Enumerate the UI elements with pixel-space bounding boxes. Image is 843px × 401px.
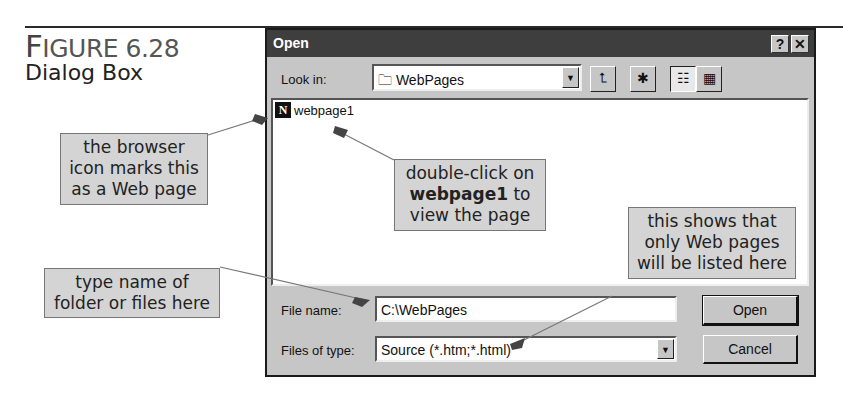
look-in-select[interactable]: 🗀 WebPages ▼ <box>372 64 582 91</box>
callout-line: icon marks this <box>61 158 207 179</box>
callout-line: this shows that <box>629 211 795 232</box>
file-name-input[interactable]: C:\WebPages <box>375 296 677 322</box>
callout-line: folder or files here <box>45 293 219 314</box>
up-one-level-icon[interactable]: ⮤ <box>590 66 616 92</box>
look-in-label: Look in: <box>281 72 327 87</box>
callout-line: double-click on <box>395 163 545 184</box>
create-new-folder-icon[interactable]: ✱ <box>630 66 656 92</box>
title-bar: Open ? ✕ <box>267 30 814 57</box>
callout-line: will be listed here <box>629 253 795 274</box>
folder-icon: 🗀 <box>378 72 396 88</box>
files-of-type-value: Source (*.htm;*.html) <box>381 342 511 358</box>
list-view-icon[interactable]: ☷ <box>670 66 696 92</box>
callout-line: view the page <box>395 205 545 226</box>
figure-label: FIGURE 6.28 <box>25 28 179 64</box>
callout-line: as a Web page <box>61 179 207 200</box>
dialog-title: Open <box>273 35 309 51</box>
files-of-type-label: Files of type: <box>281 343 355 358</box>
close-button[interactable]: ✕ <box>791 35 809 53</box>
files-of-type-dropdown-arrow-icon[interactable]: ▼ <box>657 339 674 359</box>
callout-browser-icon: the browser icon marks this as a Web pag… <box>60 133 208 205</box>
file-item-name: webpage1 <box>294 103 354 118</box>
callout-line: only Web pages <box>629 232 795 253</box>
callout-line: type name of <box>45 272 219 293</box>
callout-files-type: this shows that only Web pages will be l… <box>628 207 796 279</box>
file-name-label: File name: <box>281 303 342 318</box>
callout-bold-filename: webpage1 <box>409 184 508 204</box>
callout-line: webpage1 to <box>395 184 545 205</box>
open-button[interactable]: Open <box>703 296 798 325</box>
file-name-value: C:\WebPages <box>381 302 467 318</box>
callout-type-name: type name of folder or files here <box>44 268 220 318</box>
file-item-webpage1[interactable]: N webpage1 <box>275 102 354 118</box>
figure-subtitle: Dialog Box <box>25 60 143 85</box>
help-button[interactable]: ? <box>771 35 789 53</box>
cancel-button[interactable]: Cancel <box>703 335 798 364</box>
callout-double-click: double-click on webpage1 to view the pag… <box>394 159 546 231</box>
figure-label-cap: F <box>25 28 42 64</box>
figure-label-rest: IGURE 6.28 <box>42 34 179 63</box>
look-in-value: 🗀 WebPages <box>378 70 464 94</box>
callout-line: the browser <box>61 137 207 158</box>
files-of-type-select[interactable]: Source (*.htm;*.html) ▼ <box>375 336 677 362</box>
browser-document-icon: N <box>275 102 291 118</box>
look-in-dropdown-arrow-icon[interactable]: ▼ <box>562 67 579 88</box>
details-view-icon[interactable]: ▦ <box>696 66 722 92</box>
